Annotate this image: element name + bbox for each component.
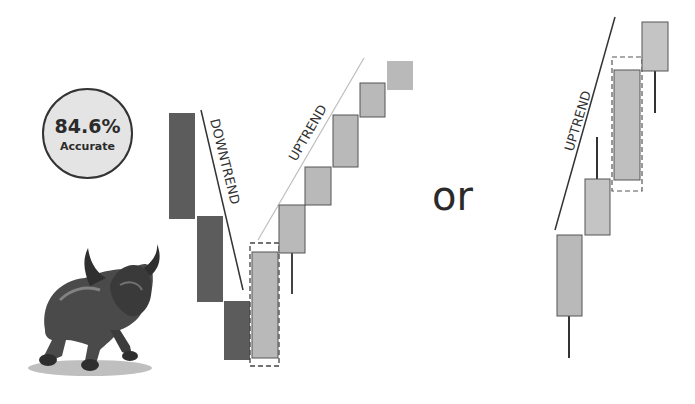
right-candle-4: [642, 22, 668, 71]
bearish-candle-3: [224, 301, 250, 360]
bull-illustration: [28, 244, 160, 376]
right-candle-2: [585, 179, 610, 235]
left-pattern: DOWNTREND UPTREND: [169, 58, 413, 366]
candlestick-diagram: DOWNTREND UPTREND UPTREND: [0, 0, 695, 404]
bullish-candle-5: [387, 61, 413, 90]
bullish-candle-3: [333, 115, 358, 167]
right-candle-1: [557, 235, 582, 316]
bearish-candle-1: [169, 113, 195, 219]
reversal-candle: [252, 252, 278, 358]
uptrend-label-right: UPTREND: [562, 89, 595, 153]
bullish-candle-4: [360, 83, 385, 117]
right-pattern: UPTREND: [555, 17, 668, 358]
bearish-candle-2: [197, 216, 223, 302]
right-candle-3: [614, 70, 640, 180]
bullish-candle-1: [279, 205, 305, 253]
bullish-candle-2: [305, 167, 331, 205]
